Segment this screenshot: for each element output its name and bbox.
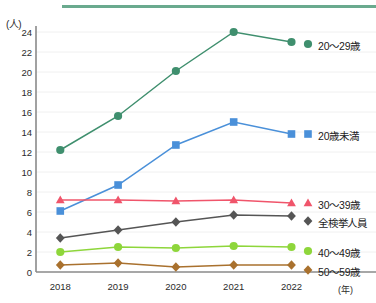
data-point-marker [287, 260, 296, 270]
data-point-marker [304, 216, 313, 226]
data-point-marker [56, 260, 65, 270]
data-point-marker [288, 130, 296, 138]
chart-container: (人) (年) 024681012141618202224 2018201920… [0, 0, 376, 303]
series-label-20歳未満: 20歳未満 [318, 128, 359, 143]
data-point-marker [230, 28, 238, 36]
data-point-marker [172, 141, 180, 149]
data-point-marker [287, 38, 295, 46]
data-point-marker [304, 40, 312, 48]
data-point-marker [287, 243, 295, 251]
data-point-marker [114, 225, 123, 235]
data-point-marker [230, 118, 238, 126]
data-point-marker [171, 262, 180, 272]
data-point-marker [171, 217, 180, 227]
data-point-marker [172, 244, 180, 252]
data-point-marker [230, 242, 238, 250]
series-label-50～59歳: 50～59歳 [318, 264, 360, 279]
series-label-40～49歳: 40～49歳 [318, 245, 360, 260]
data-point-marker [304, 265, 313, 275]
data-point-marker [114, 181, 122, 189]
data-point-marker [114, 258, 123, 268]
data-point-marker [56, 207, 64, 215]
data-point-marker [114, 243, 122, 251]
series-label-20～29歳: 20～29歳 [318, 38, 360, 53]
data-point-marker [287, 211, 296, 221]
data-point-marker [304, 199, 313, 207]
data-point-marker [172, 67, 180, 75]
data-point-marker [56, 146, 64, 154]
series-label-全検挙人員: 全検挙人員 [318, 215, 367, 230]
data-point-marker [114, 112, 122, 120]
series-label-30～39歳: 30～39歳 [318, 197, 360, 212]
data-point-marker [229, 260, 238, 270]
data-point-marker [56, 233, 65, 243]
data-point-marker [304, 247, 312, 255]
data-point-marker [304, 130, 312, 138]
data-point-marker [56, 248, 64, 256]
